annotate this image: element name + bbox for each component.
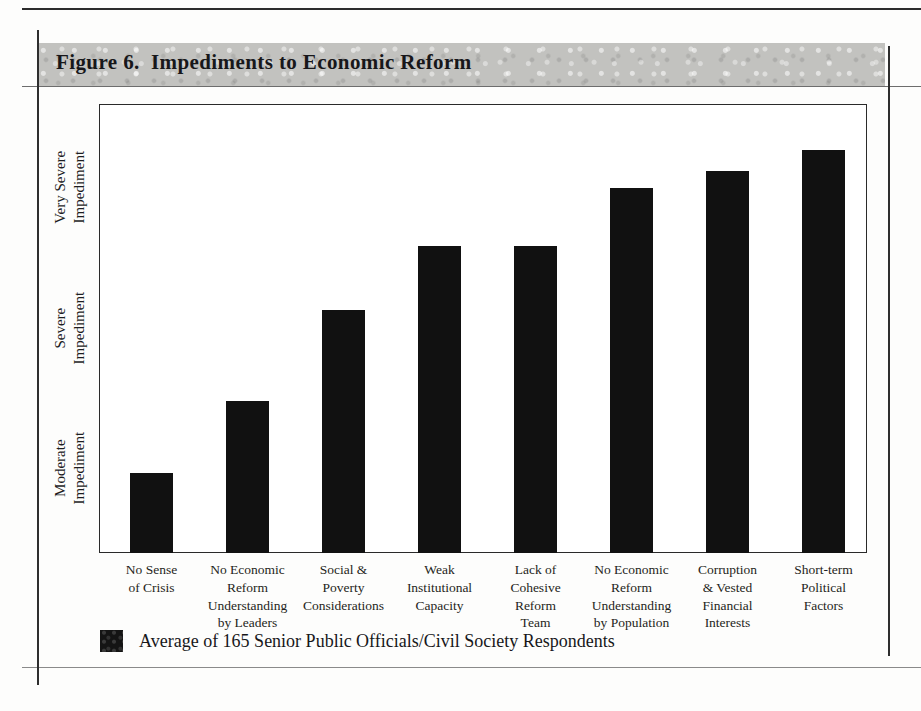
page-rule-under-title <box>22 86 921 87</box>
bar <box>226 401 269 553</box>
bar <box>802 150 845 553</box>
bar <box>130 473 173 553</box>
x-axis-tick-label: Short-term Political Factors <box>768 561 880 614</box>
figure-title: Figure 6. Impediments to Economic Reform <box>56 50 472 75</box>
page-rule-top <box>22 8 921 10</box>
legend-swatch-icon <box>100 630 123 652</box>
bar <box>514 246 557 553</box>
bar <box>418 246 461 553</box>
bar <box>322 310 365 553</box>
page-border-left <box>37 30 39 685</box>
legend-label: Average of 165 Senior Public Officials/C… <box>139 631 615 652</box>
page-border-right <box>888 46 890 656</box>
y-axis-tick-label: Very Severe Impediment <box>51 92 89 282</box>
bar-series <box>99 104 867 553</box>
bar <box>610 188 653 553</box>
scanned-figure-page: Figure 6. Impediments to Economic Reform… <box>0 0 921 711</box>
page-rule-bottom <box>22 667 921 668</box>
legend: Average of 165 Senior Public Officials/C… <box>100 630 615 652</box>
bar <box>706 171 749 553</box>
